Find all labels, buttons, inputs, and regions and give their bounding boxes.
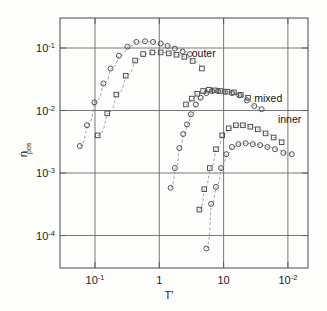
data-point xyxy=(193,102,198,107)
x-axis-title-text: T' xyxy=(165,289,174,301)
gridlines xyxy=(60,18,308,268)
x-tick-label-3: 10-2 xyxy=(278,273,297,286)
annotation-inner: inner xyxy=(278,113,302,125)
annotation-outer: outer xyxy=(192,47,216,59)
series-annotations: outermixedinner xyxy=(192,47,302,126)
y-tick-label-2: 10-3 xyxy=(36,166,55,179)
y-axis-title-text: n·pos xyxy=(15,142,33,157)
data-point xyxy=(180,49,185,54)
data-point xyxy=(116,53,121,58)
x-axis-title: T' xyxy=(165,289,174,301)
y-tick-label-0: 10-1 xyxy=(36,41,55,54)
data-point xyxy=(248,124,253,129)
tick-marks xyxy=(60,18,308,268)
curve-outer-circles xyxy=(80,41,190,146)
curve-inner-circles xyxy=(206,143,291,248)
x-tick-label-0: 10-1 xyxy=(86,273,105,286)
data-point xyxy=(229,145,234,150)
scatter-plot: 10-111010-2 10-110-210-310-4 outermixedi… xyxy=(0,0,327,311)
curve-outer-squares xyxy=(98,52,202,135)
series-curves xyxy=(80,41,292,248)
x-tick-label-2: 10 xyxy=(217,274,229,286)
figure-container: 10-111010-2 10-110-210-310-4 outermixedi… xyxy=(0,0,327,311)
y-axis-title: n·pos xyxy=(15,142,33,157)
data-point xyxy=(150,50,155,55)
y-tick-label-3: 10-4 xyxy=(36,229,55,242)
y-tick-labels: 10-110-210-310-4 xyxy=(36,41,55,242)
data-point xyxy=(200,66,205,71)
series-markers xyxy=(77,39,294,251)
y-tick-label-1: 10-2 xyxy=(36,104,55,117)
x-tick-labels: 10-111010-2 xyxy=(86,273,298,286)
annotation-mixed: mixed xyxy=(254,92,282,104)
x-tick-label-1: 1 xyxy=(156,274,162,286)
data-point xyxy=(289,152,294,157)
data-point xyxy=(243,141,248,146)
plot-frame xyxy=(60,18,308,268)
